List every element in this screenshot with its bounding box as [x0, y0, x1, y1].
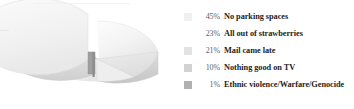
legend-percent-mail-came-late: 21% — [196, 46, 220, 55]
legend-percent-nothing-good-on-tv: 10% — [196, 63, 220, 72]
legend-item-ethnic-violence-warfare-genocide: 1% Ethnic violence/Warfare/Genocide — [184, 76, 354, 93]
legend-swatch-mail-came-late — [184, 47, 192, 55]
legend-item-all-out-of-strawberries: 23% All out of strawberries — [184, 25, 354, 42]
legend-swatch-nothing-good-on-tv — [184, 64, 192, 72]
pie-slice-no-parking-spaces — [0, 0, 95, 75]
legend-item-no-parking-spaces: 45% No parking spaces — [184, 8, 354, 25]
legend-swatch-all-out-of-strawberries — [184, 30, 192, 38]
legend-swatch-ethnic-violence-warfare-genocide — [184, 81, 192, 89]
legend-label-nothing-good-on-tv: Nothing good on TV — [224, 63, 295, 72]
legend-label-mail-came-late: Mail came late — [224, 46, 275, 55]
chart-legend: 45% No parking spaces 23% All out of str… — [184, 8, 354, 103]
scan-artifact-top — [34, 3, 130, 4]
pie-chart-figure: 45% No parking spaces 23% All out of str… — [0, 0, 354, 109]
legend-item-mail-came-late: 21% Mail came late — [184, 42, 354, 59]
legend-label-ethnic-violence-warfare-genocide: Ethnic violence/Warfare/Genocide — [224, 80, 344, 89]
legend-label-all-out-of-strawberries: All out of strawberries — [224, 29, 303, 38]
legend-item-nothing-good-on-tv: 10% Nothing good on TV — [184, 59, 354, 76]
chart-canvas — [0, 0, 180, 109]
pie-chart-graphic — [0, 0, 180, 109]
legend-swatch-no-parking-spaces — [184, 13, 192, 21]
legend-label-no-parking-spaces: No parking spaces — [224, 12, 288, 21]
legend-percent-ethnic-violence-warfare-genocide: 1% — [196, 80, 220, 89]
legend-percent-all-out-of-strawberries: 23% — [196, 29, 220, 38]
pie-slice-ethnic-violence-warfare-genocide-edge — [93, 52, 95, 77]
legend-percent-no-parking-spaces: 45% — [196, 12, 220, 21]
scan-artifact-left — [0, 30, 9, 31]
